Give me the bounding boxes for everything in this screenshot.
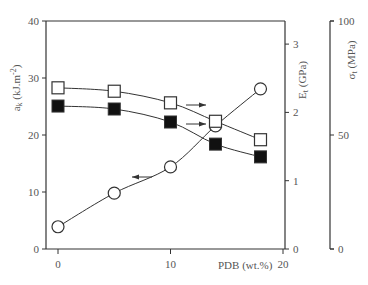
filled-square-marker [210, 138, 222, 150]
arrow-right-icon-head [199, 103, 206, 108]
x-tick-label: 20 [278, 258, 290, 270]
open-square-marker [165, 97, 177, 109]
left-axis-label: ak (kJ.m-2) [9, 64, 24, 111]
right1-tick-label: 2 [293, 106, 299, 118]
left-tick-label: 0 [34, 243, 40, 255]
open-square-marker [255, 134, 267, 146]
left-tick-label: 10 [28, 186, 40, 198]
open-circle-marker [165, 161, 177, 173]
x-tick-label: 10 [165, 258, 177, 270]
curves [58, 88, 261, 227]
x-tick-label: 0 [55, 258, 61, 270]
filled-square-marker [108, 103, 120, 115]
axes: 010200102030400123050100 [28, 15, 355, 270]
arrow-left-icon-head [132, 175, 139, 180]
left-tick-label: 30 [28, 72, 40, 84]
right2-tick-label: 100 [338, 15, 355, 27]
right2-tick-label: 50 [338, 129, 350, 141]
right1-tick-label: 1 [293, 175, 299, 187]
right1-tick-label: 3 [293, 38, 299, 50]
open-square-marker [210, 115, 222, 127]
right2-tick-label: 0 [338, 243, 344, 255]
x-axis-label: PDB (wt.%) [218, 259, 273, 272]
open-square-marker [108, 85, 120, 97]
left-tick-label: 40 [28, 15, 40, 27]
right1-tick-label: 0 [293, 243, 299, 255]
left-tick-label: 20 [28, 129, 40, 141]
chart: 010200102030400123050100 PDB (wt.%) ak (… [0, 0, 368, 285]
right1-axis-label: Et (GPa) [296, 61, 310, 99]
filled-square-marker [165, 116, 177, 128]
right2-axis-label: σt (MPa) [345, 40, 359, 79]
filled-square-marker [255, 151, 267, 163]
open-square-marker [52, 82, 64, 94]
curve-open-circle [58, 89, 261, 227]
open-circle-marker [52, 221, 64, 233]
open-circle-marker [108, 187, 120, 199]
filled-square-marker [52, 100, 64, 112]
open-circle-marker [255, 83, 267, 95]
arrow-right-icon-head [199, 122, 206, 127]
